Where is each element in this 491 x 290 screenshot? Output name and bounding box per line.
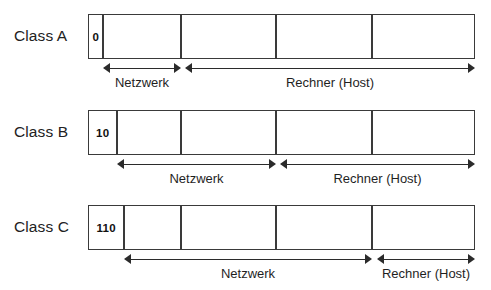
class-row-a: Class A 0 Netzwerk Rechner (Host) bbox=[0, 0, 491, 96]
arrow-head-left-icon bbox=[280, 159, 287, 169]
network-span-arrow-b bbox=[117, 159, 276, 170]
network-caption-b: Netzwerk bbox=[117, 171, 276, 186]
octet-divider-b-2 bbox=[275, 111, 277, 154]
class-label-a: Class A bbox=[14, 27, 86, 45]
bit-field-divider-a bbox=[102, 15, 104, 58]
host-span-arrow-a bbox=[185, 63, 475, 74]
host-caption-a: Rechner (Host) bbox=[185, 75, 475, 90]
address-bar-a: 0 bbox=[88, 14, 475, 59]
octet-divider-a-2 bbox=[275, 15, 277, 58]
arrow-head-left-icon bbox=[185, 63, 192, 73]
address-bar-c: 110 bbox=[88, 205, 475, 250]
arrow-head-right-icon bbox=[468, 159, 475, 169]
octet-divider-c-1 bbox=[180, 206, 182, 249]
arrow-shaft bbox=[122, 164, 271, 165]
arrow-head-right-icon bbox=[174, 63, 181, 73]
bit-pattern-c: 110 bbox=[89, 206, 123, 249]
octet-divider-a-3 bbox=[371, 15, 373, 58]
class-row-b: Class B 10 Netzwerk Rechner (Host) bbox=[0, 96, 491, 191]
arrow-head-right-icon bbox=[269, 159, 276, 169]
octet-divider-b-1 bbox=[180, 111, 182, 154]
octet-divider-b-3 bbox=[371, 111, 373, 154]
network-span-arrow-a bbox=[103, 63, 181, 74]
arrow-head-left-icon bbox=[377, 254, 384, 264]
network-caption-c: Netzwerk bbox=[124, 266, 372, 281]
arrow-shaft bbox=[190, 68, 470, 69]
arrow-head-right-icon bbox=[365, 254, 372, 264]
arrow-shaft bbox=[285, 164, 470, 165]
class-row-c: Class C 110 Netzwerk Rechner (Host) bbox=[0, 191, 491, 290]
octet-divider-c-3 bbox=[371, 206, 373, 249]
host-span-arrow-c bbox=[377, 254, 475, 265]
arrow-head-left-icon bbox=[103, 63, 110, 73]
ip-address-class-diagram: Class A 0 Netzwerk Rechner (Host) Class … bbox=[0, 0, 491, 290]
class-label-b: Class B bbox=[14, 123, 86, 141]
arrow-head-left-icon bbox=[124, 254, 131, 264]
bit-field-divider-c bbox=[123, 206, 125, 249]
octet-divider-a-1 bbox=[180, 15, 182, 58]
host-span-arrow-b bbox=[280, 159, 475, 170]
arrow-head-left-icon bbox=[117, 159, 124, 169]
arrow-head-right-icon bbox=[468, 63, 475, 73]
host-caption-c: Rechner (Host) bbox=[365, 266, 487, 281]
address-bar-b: 10 bbox=[88, 110, 475, 155]
network-span-arrow-c bbox=[124, 254, 372, 265]
bit-pattern-a: 0 bbox=[89, 15, 102, 58]
bit-pattern-b: 10 bbox=[89, 111, 116, 154]
octet-divider-c-2 bbox=[275, 206, 277, 249]
arrow-shaft bbox=[108, 68, 176, 69]
host-caption-b: Rechner (Host) bbox=[280, 171, 475, 186]
bit-field-divider-b bbox=[116, 111, 118, 154]
class-label-c: Class C bbox=[14, 218, 86, 236]
arrow-head-right-icon bbox=[468, 254, 475, 264]
arrow-shaft bbox=[382, 259, 470, 260]
arrow-shaft bbox=[129, 259, 367, 260]
network-caption-a: Netzwerk bbox=[103, 75, 181, 90]
